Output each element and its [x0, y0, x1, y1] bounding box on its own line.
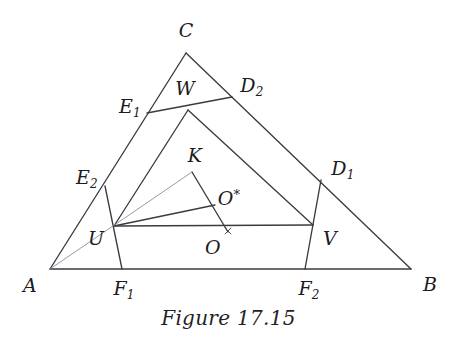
segment-W-V	[188, 110, 313, 225]
point-label-D2: D2	[240, 76, 263, 95]
point-label-C: C	[179, 21, 194, 40]
point-label-F2: F2	[298, 279, 319, 298]
side-AC	[50, 53, 186, 269]
point-label-F1: F1	[113, 279, 134, 298]
point-label-O: O	[205, 238, 221, 257]
mark-layer	[225, 228, 231, 234]
geometry-drawing	[0, 0, 457, 355]
point-label-K: K	[188, 146, 202, 165]
point-label-B: B	[423, 275, 437, 294]
figure-caption: Figure 17.15	[0, 306, 457, 330]
figure-container: A B C U V W K O O* E1 E2 D1 D2 F1 F2 Fig…	[0, 0, 457, 355]
point-label-E1: E1	[119, 97, 141, 116]
point-label-E2: E2	[76, 168, 98, 187]
segment-U-K-light	[50, 172, 192, 269]
asterisk-glyph: *	[234, 187, 241, 202]
point-label-V: V	[323, 229, 337, 248]
chord-U-V	[114, 225, 313, 226]
point-label-W: W	[175, 79, 195, 98]
segment-layer	[50, 53, 411, 269]
segment-U-Ostar	[114, 205, 215, 226]
segment-U-W	[114, 110, 188, 226]
cross-mark-O	[225, 228, 231, 234]
point-label-A: A	[23, 276, 37, 295]
point-label-D1: D1	[331, 159, 354, 178]
chord-E2-F1	[105, 186, 122, 269]
point-label-U: U	[88, 229, 104, 248]
point-label-O-star: O*	[218, 189, 240, 208]
